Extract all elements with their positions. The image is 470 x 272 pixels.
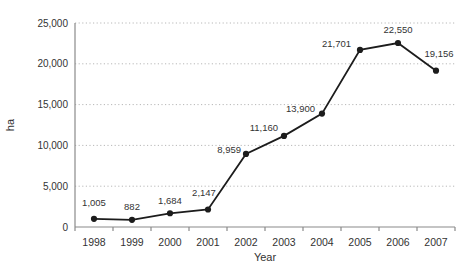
y-axis-title: ha <box>4 118 16 131</box>
data-point-2007 <box>433 68 439 74</box>
y-tick-label: 20,000 <box>37 58 68 69</box>
x-tick-label-2002: 2002 <box>234 236 258 248</box>
data-point-2004 <box>319 110 325 116</box>
data-point-label: 21,701 <box>322 38 351 49</box>
x-axis-title: Year <box>254 251 277 263</box>
data-point-label: 882 <box>124 201 140 212</box>
data-point-2005 <box>357 47 363 53</box>
data-point-label: 1,684 <box>158 195 182 206</box>
data-point-2002 <box>243 151 249 157</box>
data-point-1999 <box>129 217 135 223</box>
x-tick-label-1999: 1999 <box>120 236 144 248</box>
x-tick-label-2001: 2001 <box>196 236 220 248</box>
x-tick-label-2004: 2004 <box>310 236 334 248</box>
x-tick-label-2000: 2000 <box>158 236 182 248</box>
data-point-label: 19,156 <box>424 48 453 59</box>
x-tick-label-1998: 1998 <box>82 236 106 248</box>
y-tick-label: 5,000 <box>43 181 68 192</box>
data-point-2000 <box>167 210 173 216</box>
data-point-2001 <box>205 206 211 212</box>
x-tick-label-2003: 2003 <box>272 236 296 248</box>
data-point-label: 8,959 <box>217 144 241 155</box>
data-point-2006 <box>395 40 401 46</box>
x-tick-label-2005: 2005 <box>348 236 372 248</box>
x-tick-label-2006: 2006 <box>386 236 410 248</box>
x-tick-label-2007: 2007 <box>424 236 448 248</box>
y-tick-label: 15,000 <box>37 99 68 110</box>
y-tick-label: 0 <box>62 222 68 233</box>
data-point-label: 13,900 <box>286 103 315 114</box>
data-point-label: 11,160 <box>250 122 278 133</box>
data-point-label: 1,005 <box>82 197 106 208</box>
line-chart-figure: 05,00010,00015,00020,00025,0001998199920… <box>0 0 470 272</box>
y-tick-label: 10,000 <box>37 140 68 151</box>
chart-canvas: 05,00010,00015,00020,00025,0001998199920… <box>0 0 470 272</box>
data-point-label: 22,550 <box>383 24 412 35</box>
y-tick-label: 25,000 <box>37 18 68 29</box>
data-point-2003 <box>281 133 287 139</box>
data-point-1998 <box>91 216 97 222</box>
data-point-label: 2,147 <box>192 187 216 198</box>
